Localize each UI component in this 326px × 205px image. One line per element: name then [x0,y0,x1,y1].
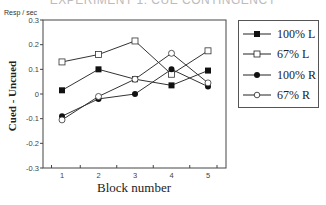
series-line [62,53,208,120]
x-tick-label: 1 [60,171,64,180]
open-circle-marker-icon [239,88,275,102]
y-tick-label: 0.1 [29,65,39,74]
y-tick-label: -0.1 [26,114,39,123]
open-square-marker-icon [96,52,102,58]
filled-circle-marker-icon [169,66,175,72]
legend-label: 67% R [277,88,310,103]
x-axis-label: Block number [97,180,171,196]
filled-square-marker-icon [59,87,65,93]
series-line [62,41,208,74]
x-tick-label: 2 [96,171,100,180]
open-square-marker-icon [205,48,211,54]
filled-square-marker-icon [239,27,275,41]
legend-label: 100% R [277,68,316,83]
y-tick-label: -0.3 [26,164,39,173]
filled-square-marker-icon [205,68,211,74]
legend-label: 67% L [277,47,309,62]
legend-item-100-r: 100% R [239,68,319,82]
open-circle-marker-icon [205,80,211,86]
open-square-marker-icon [239,47,275,61]
x-tick-label: 3 [133,171,137,180]
filled-square-marker-icon [96,66,102,72]
open-square-marker-icon [132,38,138,44]
open-circle-marker-icon [132,76,138,82]
open-circle-marker-icon [59,117,65,123]
legend-label: 100% L [277,27,315,42]
filled-square-marker-icon [169,82,175,88]
y-tick-label: 0.2 [29,40,39,49]
y-tick-label: -0.2 [26,139,39,148]
legend-item-100-l: 100% L [239,27,319,41]
y-tick-label: 0 [35,90,39,99]
legend-item-67-l: 67% L [239,47,319,61]
x-tick-label: 4 [169,171,173,180]
open-circle-marker-icon [169,50,175,56]
y-tick-label: 0.3 [29,16,39,25]
filled-circle-marker-icon [132,91,138,97]
legend-item-67-r: 67% R [239,88,319,102]
x-tick-label: 5 [206,171,210,180]
plot-area: 0.30.20.10-0.1-0.2-0.312345 [0,0,236,180]
open-square-marker-icon [59,59,65,65]
legend: 100% L 67% L 100% R 67% R [238,20,319,108]
open-circle-marker-icon [96,93,102,99]
filled-circle-marker-icon [239,68,275,82]
